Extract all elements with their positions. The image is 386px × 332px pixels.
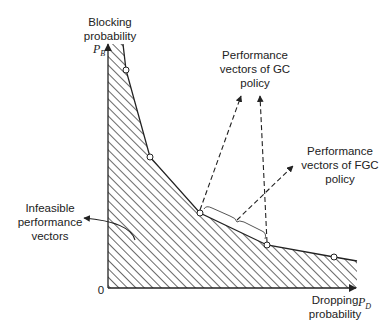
fgc-annotation: Performance vectors of FGC policy xyxy=(296,144,384,186)
y-axis-label-line1: Blocking xyxy=(70,15,150,29)
fgc-line2: vectors of FGC xyxy=(296,158,384,172)
infeasible-line2: performance xyxy=(14,215,86,229)
x-axis-symbol: PD xyxy=(358,295,371,311)
fgc-line1: Performance xyxy=(296,144,384,158)
y-axis-label: Blocking probability xyxy=(70,15,150,43)
gc-arrow-2 xyxy=(260,96,267,242)
gc-line2: vectors of GC xyxy=(205,62,305,76)
infeasible-line1: Infeasible xyxy=(14,201,86,215)
infeasible-annotation: Infeasible performance vectors xyxy=(14,201,86,243)
y-axis-symbol: PB xyxy=(93,42,105,58)
y-axis-label-line2: probability xyxy=(70,29,150,43)
gc-annotation: Performance vectors of GC policy xyxy=(205,48,305,90)
gc-line3: policy xyxy=(205,76,305,90)
origin-label: 0 xyxy=(96,283,106,297)
gc-line1: Performance xyxy=(205,48,305,62)
gc-arrow-1 xyxy=(200,96,241,210)
infeasible-line3: vectors xyxy=(14,229,86,243)
fgc-line3: policy xyxy=(296,172,384,186)
